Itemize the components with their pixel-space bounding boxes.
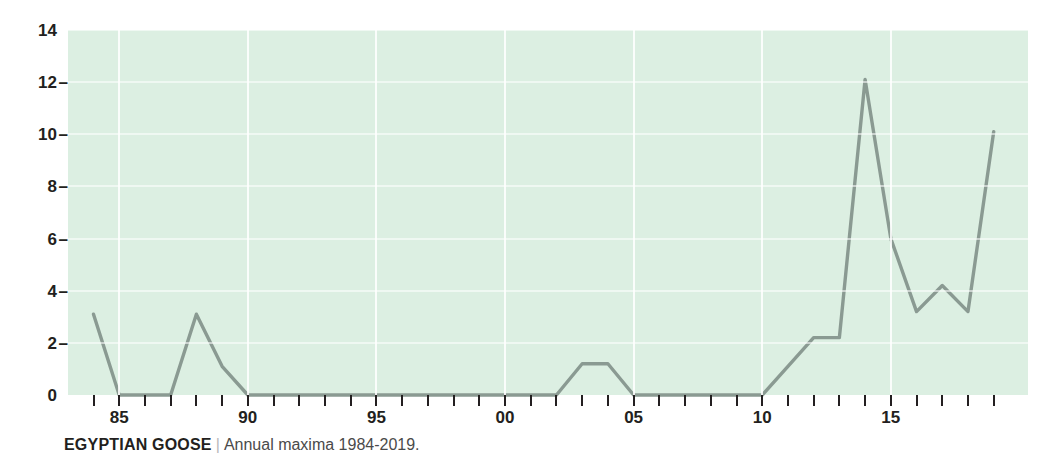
data-line-series — [68, 30, 1028, 395]
gridline-horizontal — [68, 238, 1028, 240]
caption-separator: | — [212, 436, 224, 453]
x-axis-tick-mark — [761, 395, 763, 406]
y-axis-tick-label: 10– — [6, 126, 68, 143]
y-axis-tick-label: 8– — [6, 178, 68, 195]
y-axis-tick-mark: – — [57, 335, 68, 352]
gridline-vertical — [633, 30, 635, 395]
x-axis-tick-mark — [838, 395, 840, 406]
y-axis-tick-label: 14 — [6, 22, 68, 39]
caption-description: Annual maxima 1984-2019. — [224, 436, 420, 453]
x-axis-tick-mark — [916, 395, 918, 406]
gridline-horizontal — [68, 133, 1028, 135]
y-axis-tick-mark: – — [57, 178, 68, 195]
y-axis-tick-label: 12– — [6, 74, 68, 91]
caption-species: EGYPTIAN GOOSE — [64, 436, 212, 453]
caption: EGYPTIAN GOOSE|Annual maxima 1984-2019. — [64, 437, 420, 453]
gridline-vertical — [118, 30, 120, 395]
x-axis-tick-mark — [453, 395, 455, 406]
x-axis-tick-mark — [581, 395, 583, 406]
x-axis-tick-label: 15 — [881, 409, 900, 426]
y-axis: 02–4–6–8–10–12–14 — [0, 0, 68, 425]
x-axis-tick-mark — [813, 395, 815, 406]
y-axis-tick-label: 0 — [6, 387, 68, 404]
x-axis-tick-mark — [864, 395, 866, 406]
y-axis-tick-label: 2– — [6, 335, 68, 352]
x-axis-tick-label: 95 — [367, 409, 386, 426]
gridline-vertical — [504, 30, 506, 395]
gridline-vertical — [247, 30, 249, 395]
gridline-horizontal — [68, 29, 1028, 31]
x-axis-tick-mark — [633, 395, 635, 406]
x-axis-tick-mark — [144, 395, 146, 406]
y-axis-tick-label: 4– — [6, 283, 68, 300]
x-axis-tick-mark — [710, 395, 712, 406]
y-axis-tick-mark: – — [57, 283, 68, 300]
x-axis-tick-mark — [118, 395, 120, 406]
x-axis-tick-mark — [504, 395, 506, 406]
x-axis-tick-mark — [530, 395, 532, 406]
x-axis-tick-mark — [555, 395, 557, 406]
x-axis-tick-mark — [375, 395, 377, 406]
x-axis-tick-mark — [350, 395, 352, 406]
x-axis-tick-mark — [273, 395, 275, 406]
x-axis-tick-mark — [93, 395, 95, 406]
x-axis-tick-mark — [787, 395, 789, 406]
x-axis-tick-label: 10 — [753, 409, 772, 426]
x-axis-tick-mark — [195, 395, 197, 406]
y-axis-tick-mark: – — [57, 126, 68, 143]
x-axis-tick-mark — [890, 395, 892, 406]
x-axis-tick-mark — [658, 395, 660, 406]
chart-figure: 02–4–6–8–10–12–14 85909500051015 EGYPTIA… — [0, 0, 1044, 469]
x-axis-tick-mark — [324, 395, 326, 406]
y-axis-tick-label: 6– — [6, 231, 68, 248]
gridline-horizontal — [68, 81, 1028, 83]
x-axis-tick-mark — [401, 395, 403, 406]
x-axis-tick-mark — [684, 395, 686, 406]
x-axis-tick-mark — [967, 395, 969, 406]
gridline-vertical — [890, 30, 892, 395]
x-axis-tick-label: 90 — [238, 409, 257, 426]
x-axis-tick-mark — [607, 395, 609, 406]
x-axis-tick-mark — [478, 395, 480, 406]
x-axis-tick-mark — [221, 395, 223, 406]
y-axis-tick-mark: – — [57, 74, 68, 91]
x-axis-tick-mark — [427, 395, 429, 406]
x-axis-tick-mark — [993, 395, 995, 406]
x-axis-tick-mark — [247, 395, 249, 406]
x-axis: 85909500051015 — [68, 395, 1033, 435]
x-axis-tick-mark — [941, 395, 943, 406]
x-axis-tick-label: 05 — [624, 409, 643, 426]
plot-area — [68, 30, 1028, 395]
gridline-horizontal — [68, 185, 1028, 187]
gridline-horizontal — [68, 342, 1028, 344]
gridline-horizontal — [68, 290, 1028, 292]
gridline-vertical — [375, 30, 377, 395]
x-axis-tick-mark — [170, 395, 172, 406]
x-axis-tick-label: 00 — [496, 409, 515, 426]
x-axis-tick-label: 85 — [110, 409, 129, 426]
y-axis-tick-mark: – — [57, 231, 68, 248]
x-axis-tick-mark — [736, 395, 738, 406]
x-axis-tick-mark — [298, 395, 300, 406]
gridline-vertical — [761, 30, 763, 395]
